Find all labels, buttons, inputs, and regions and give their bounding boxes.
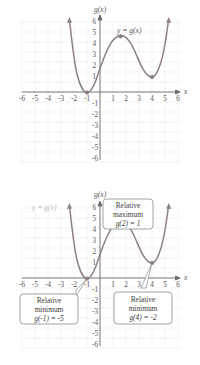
graph-annotated-figure: g(x) x -6 -5 -4 -3 -2 -1 1 2 3 4 5 6 6 5 <box>0 178 200 365</box>
x-tick-label: 6 <box>176 95 180 103</box>
x-axis-name: x <box>183 273 188 282</box>
y-tick-label: 2 <box>92 62 96 70</box>
y-tick-label: -1 <box>92 286 98 294</box>
y-axis-name: g(x) <box>94 190 107 199</box>
x-axis-name: x <box>183 87 188 96</box>
x-tick-label: 3 <box>137 281 141 289</box>
y-tick-label: -1 <box>92 100 98 108</box>
y-tick-label: -3 <box>92 308 98 316</box>
x-tick-label: -4 <box>45 95 51 103</box>
y-tick-label: 4 <box>92 226 96 234</box>
callout-line-2: minimum <box>129 304 158 313</box>
y-tick-label: 4 <box>92 40 96 48</box>
callout-line-1: Relative <box>116 201 141 210</box>
x-tick-label: -3 <box>58 95 64 103</box>
y-tick-label: 5 <box>92 29 96 37</box>
relative-minimum-point-right <box>150 75 154 79</box>
x-tick-label: 4 <box>150 281 154 289</box>
axes <box>22 15 180 160</box>
x-tick-label: -2 <box>71 95 77 103</box>
y-tick-label: -6 <box>92 155 98 163</box>
callout-relative-minimum-right[interactable]: Relative minimum g(4) = -2 <box>114 263 172 324</box>
x-tick-label: 4 <box>150 95 154 103</box>
y-tick-label: -5 <box>92 330 98 338</box>
y-tick-label: -2 <box>92 297 98 305</box>
y-tick-labels: 6 5 4 3 2 1 -1 -2 -3 -4 -5 -6 <box>92 18 98 163</box>
callout-line-3: g(4) = -2 <box>129 313 156 322</box>
y-tick-label: -2 <box>92 111 98 119</box>
y-tick-label: -5 <box>92 144 98 152</box>
callout-line-2: minimum <box>35 305 64 314</box>
x-tick-label: 6 <box>176 281 180 289</box>
x-axis-arrow <box>176 90 181 94</box>
y-tick-label: -4 <box>92 319 98 327</box>
y-tick-label: 2 <box>92 248 96 256</box>
callout-line-3: g(-1) = -5 <box>34 314 64 323</box>
y-tick-label: -3 <box>92 122 98 130</box>
y-tick-label: 6 <box>92 204 96 212</box>
callout-line-1: Relative <box>37 296 62 305</box>
callout-relative-maximum[interactable]: Relative maximum g(2) = 1 <box>103 199 153 229</box>
graph-plain-svg: g(x) x -6 -5 -4 -3 -2 -1 1 2 3 4 5 6 6 5 <box>0 0 200 178</box>
x-tick-label: -1 <box>84 95 90 103</box>
x-tick-label: 1 <box>111 95 115 103</box>
curve-label: y = g(x) <box>116 26 142 35</box>
x-tick-label: -6 <box>19 95 25 103</box>
y-axis-name: g(x) <box>94 5 107 14</box>
graph-annotated-svg: g(x) x -6 -5 -4 -3 -2 -1 1 2 3 4 5 6 6 5 <box>0 178 200 365</box>
x-tick-label: -3 <box>58 281 64 289</box>
callout-line-3: g(2) = 1 <box>116 219 141 228</box>
y-axis-arrow <box>98 15 102 20</box>
figure-page: g(x) x -6 -5 -4 -3 -2 -1 1 2 3 4 5 6 6 5 <box>0 0 200 365</box>
y-tick-label: -4 <box>92 133 98 141</box>
x-tick-label: -2 <box>71 281 77 289</box>
callout-line-1: Relative <box>131 295 156 304</box>
callout-line-2: maximum <box>113 210 143 219</box>
y-tick-label: 3 <box>92 51 96 59</box>
x-tick-label: 2 <box>124 95 128 103</box>
y-axis-arrow <box>98 201 102 206</box>
x-axis-arrow <box>176 276 181 280</box>
y-tick-label: -6 <box>92 341 98 349</box>
graph-plain-figure: g(x) x -6 -5 -4 -3 -2 -1 1 2 3 4 5 6 6 5 <box>0 0 200 178</box>
y-tick-label: 5 <box>92 215 96 223</box>
x-tick-label: 1 <box>111 281 115 289</box>
x-tick-label: 2 <box>124 281 128 289</box>
x-tick-label: 5 <box>163 281 167 289</box>
x-tick-label: 5 <box>163 95 167 103</box>
y-tick-label: 6 <box>92 18 96 26</box>
curve-label: y = g(x) <box>31 203 57 212</box>
y-tick-labels: 6 5 4 3 2 1 -1 -2 -3 -4 -5 -6 <box>92 204 98 349</box>
x-tick-label: -6 <box>19 281 25 289</box>
y-tick-label: 3 <box>92 237 96 245</box>
x-tick-label: -5 <box>32 95 38 103</box>
x-tick-label: -4 <box>45 281 51 289</box>
relative-minimum-point-left <box>85 91 89 95</box>
x-tick-label: -5 <box>32 281 38 289</box>
x-tick-label: 3 <box>137 95 141 103</box>
